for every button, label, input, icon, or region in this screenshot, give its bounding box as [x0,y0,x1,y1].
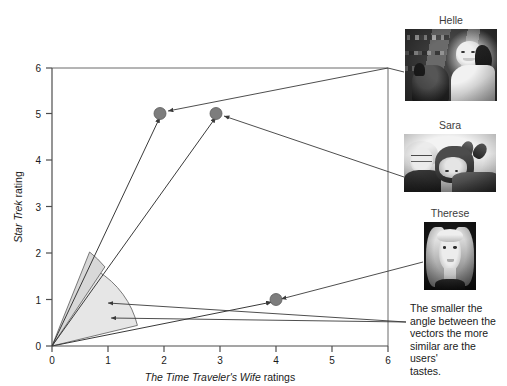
y-tick-4: 4 [35,155,41,166]
y-axis-tick-labels: 0 1 2 3 4 5 6 [35,63,41,352]
x-axis-title: The Time Traveler's Wife ratings [145,371,295,383]
y-tick-2: 2 [35,248,41,259]
x-tick-4: 4 [273,355,279,366]
x-tick-2: 2 [161,355,167,366]
leader-sara [224,116,404,177]
leader-caption-large-angle [111,318,406,322]
photo-helle [405,29,497,101]
data-points [154,108,282,306]
angle-explanation-caption: The smaller the angle between the vector… [410,302,502,378]
y-axis-title-plain: rating [12,171,24,200]
x-axis-ticks [52,346,388,352]
y-axis-ticks [46,68,52,346]
x-tick-0: 0 [49,355,55,366]
person-name-therese: Therese [424,207,476,219]
y-tick-0: 0 [35,341,41,352]
vector-sara [52,117,216,346]
leader-helle [168,68,404,111]
y-tick-6: 6 [35,63,41,74]
caption-line-5: tastes. [410,365,502,378]
photo-sara [404,134,496,192]
x-axis-title-plain: ratings [261,371,295,383]
data-point-therese[interactable] [270,294,282,306]
caption-line-4: similar are the users' [410,340,502,365]
leader-therese [281,262,423,299]
x-tick-5: 5 [329,355,335,366]
x-tick-1: 1 [105,355,111,366]
caption-line-2: angle between the [410,315,502,328]
x-axis-tick-labels: 0 1 2 3 4 5 6 [49,355,391,366]
x-tick-6: 6 [385,355,391,366]
person-card-therese: Therese [424,207,476,290]
y-tick-1: 1 [35,295,41,306]
photo-therese [424,222,476,290]
leader-caption-small-angle [108,303,406,322]
x-axis-title-italic: The Time Traveler's Wife [145,371,261,383]
y-axis-title-italic: Star Trek [12,200,24,243]
person-card-sara: Sara [404,119,496,192]
caption-line-1: The smaller the [410,302,502,315]
y-axis-title: Star Trek rating [12,171,24,243]
person-card-helle: Helle [405,14,497,101]
x-tick-3: 3 [217,355,223,366]
person-name-sara: Sara [404,119,496,131]
y-tick-5: 5 [35,109,41,120]
y-tick-3: 3 [35,202,41,213]
data-point-sara[interactable] [210,108,222,120]
caption-line-3: vectors the more [410,327,502,340]
data-point-helle[interactable] [154,108,166,120]
figure-container: 0 1 2 3 4 5 6 0 1 2 3 4 5 6 [0,0,507,386]
person-name-helle: Helle [405,14,497,26]
leader-lines [108,68,423,322]
